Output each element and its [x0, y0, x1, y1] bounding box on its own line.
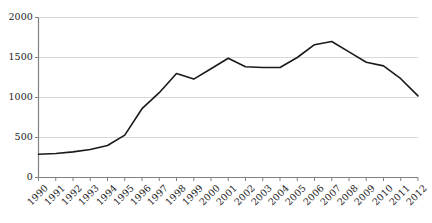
y-axis-tick-label: 1000: [3, 92, 33, 102]
y-axis-tick-label: 0: [3, 172, 33, 182]
y-axis-tick-label: 500: [3, 132, 33, 142]
y-axis-tick-label: 2000: [3, 12, 33, 22]
line-chart: 0500100015002000 19901991199219931994199…: [0, 0, 432, 223]
x-axis-ticks: [39, 178, 419, 182]
y-axis-tick-label: 1500: [3, 52, 33, 62]
gridlines: [39, 18, 419, 138]
